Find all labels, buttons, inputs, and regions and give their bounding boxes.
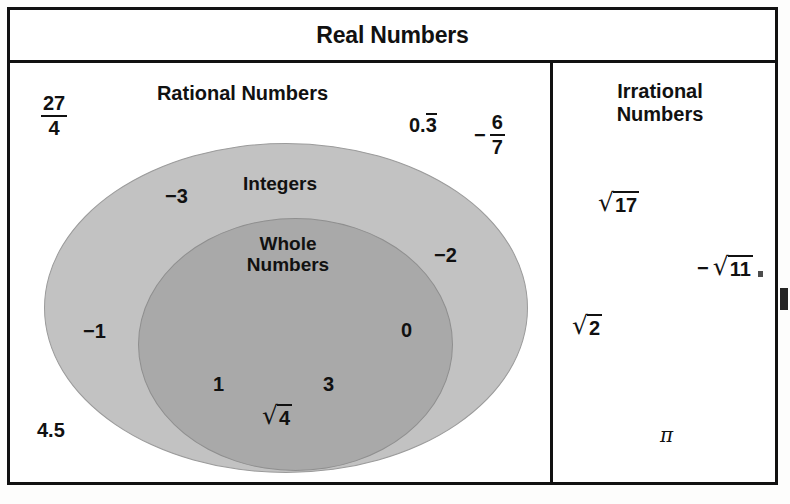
fraction-denominator: 4 <box>41 117 67 139</box>
radical-sign: √ <box>572 314 588 339</box>
number-27-over-4: 27 4 <box>41 93 67 139</box>
fraction-numerator: 6 <box>490 112 505 136</box>
number-negative-2: −2 <box>434 245 457 265</box>
number-1: 1 <box>213 374 224 394</box>
radical-sign: √ <box>713 255 729 280</box>
radicand: 11 <box>728 255 753 280</box>
radicand: 4 <box>277 404 292 429</box>
negative-sign: − <box>474 125 486 145</box>
integers-label: Integers <box>180 173 380 194</box>
radical-sign: √ <box>262 404 278 429</box>
number-pi: π <box>660 425 673 445</box>
real-numbers-frame: Real Numbers Rational Numbers Integers W… <box>7 7 778 485</box>
decimal-lead: 0. <box>409 114 426 136</box>
number-0: 0 <box>401 320 412 340</box>
number-0-point-3-repeating: 0.3 <box>409 113 437 136</box>
number-sqrt-17: √ 17 <box>598 191 639 216</box>
number-negative-3: −3 <box>165 186 188 206</box>
scan-artifact-notch <box>758 271 763 277</box>
number-negative-1: −1 <box>83 321 106 341</box>
diagram-body: Rational Numbers Integers Whole Numbers … <box>10 63 775 485</box>
number-negative-6-over-7: − 6 7 <box>474 112 505 158</box>
number-negative-sqrt-11: − √ 11 <box>697 255 753 280</box>
number-3: 3 <box>323 374 334 394</box>
scanned-page: Real Numbers Rational Numbers Integers W… <box>0 0 790 504</box>
negative-sign: − <box>697 258 709 278</box>
radical-sign: √ <box>598 191 614 216</box>
number-sqrt-4: √ 4 <box>262 404 292 429</box>
whole-numbers-label: Whole Numbers <box>188 233 388 276</box>
repeating-digit: 3 <box>426 113 437 136</box>
radicand: 17 <box>613 191 639 216</box>
page-title: Real Numbers <box>316 22 468 49</box>
rational-numbers-pane: Rational Numbers Integers Whole Numbers … <box>10 63 553 485</box>
real-numbers-title-bar: Real Numbers <box>10 10 775 63</box>
irrational-numbers-pane: Irrational Numbers √ 17 − √ 11 <box>553 63 775 485</box>
scan-artifact-notch <box>780 288 788 310</box>
radicand: 2 <box>587 314 602 339</box>
fraction-denominator: 7 <box>490 136 505 158</box>
number-sqrt-2: √ 2 <box>572 314 602 339</box>
fraction-numerator: 27 <box>41 93 67 117</box>
number-4-point-5: 4.5 <box>37 420 65 440</box>
rational-numbers-heading: Rational Numbers <box>10 82 475 105</box>
irrational-numbers-heading: Irrational Numbers <box>553 80 767 126</box>
